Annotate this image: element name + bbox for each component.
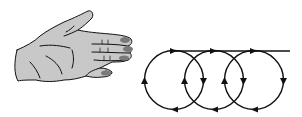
trajectory bbox=[145, 51, 291, 110]
fingernail bbox=[120, 37, 130, 43]
fingernail bbox=[101, 70, 111, 75]
arrow-right-icon bbox=[170, 48, 177, 54]
diagram-canvas bbox=[0, 0, 302, 117]
arrow-left-icon bbox=[171, 107, 178, 113]
arrow-down-icon bbox=[280, 78, 287, 85]
arrow-down-icon bbox=[200, 78, 207, 85]
direction-arrows bbox=[141, 48, 287, 113]
arrow-left-icon bbox=[251, 107, 258, 113]
right-hand-icon bbox=[15, 11, 133, 82]
loop-circle-2 bbox=[185, 51, 244, 110]
loop-circle-1 bbox=[145, 51, 204, 110]
loop-circle-3 bbox=[225, 51, 284, 110]
fingernail bbox=[123, 46, 133, 52]
arrow-down-icon bbox=[240, 78, 247, 85]
arrow-right-icon bbox=[210, 48, 217, 54]
arrow-up-icon bbox=[181, 77, 188, 84]
arrow-up-icon bbox=[141, 77, 148, 84]
arrow-right-icon bbox=[250, 48, 257, 54]
fingernail bbox=[119, 55, 129, 60]
arrow-up-icon bbox=[221, 77, 228, 84]
arrow-left-icon bbox=[211, 107, 218, 113]
